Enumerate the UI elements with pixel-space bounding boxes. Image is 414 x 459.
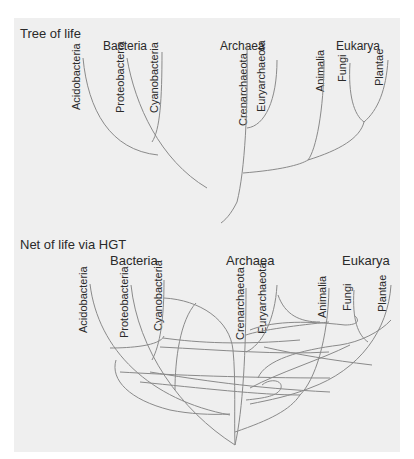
tree-leaf-fungi: Fungi [336, 54, 348, 82]
net-of-life: Net of life via HGT Bacteria Archaea Euk… [20, 237, 391, 445]
net-leaf-fungi: Fungi [341, 283, 353, 311]
tree-branch-eukarya-root [243, 160, 308, 173]
net-domain-eukarya: Eukarya [342, 253, 390, 268]
net-hgt-eury-animalia [278, 295, 320, 322]
net-leaf-euryarchaeota: Euryarchaeota [256, 262, 268, 334]
net-leaf-crenarchaeota: Crenarchaeota [234, 266, 246, 340]
tree-leaf-cyanobacteria: Cyanobacteria [148, 41, 160, 113]
net-hgt-arch-eukarya [250, 345, 350, 388]
tree-title: Tree of life [20, 26, 81, 41]
tree-leaf-euryarchaeota: Euryarchaeota [255, 40, 267, 112]
tree-leaf-acidobacteria: Acidobacteria [70, 42, 82, 110]
tree-branch-proteobacteria [127, 58, 207, 188]
net-lineage-fungi [354, 290, 368, 342]
net-lineage-proteobacteria [131, 285, 235, 445]
net-leaf-animalia: Animalia [316, 275, 328, 318]
net-leaf-proteobacteria: Proteobacteria [118, 266, 130, 338]
tree-branch-fungi [350, 63, 364, 122]
tree-leaf-plantae: Plantae [373, 49, 385, 86]
net-hgt-cyano-arch [164, 298, 235, 445]
net-hgt-cyano-down [175, 303, 196, 390]
net-hgt-small-loop [246, 381, 281, 400]
net-hgt-long-1 [120, 372, 330, 378]
net-leaf-plantae: Plantae [376, 275, 388, 312]
tree-of-life: Tree of life Bacteria Archaea Eukarya Ac… [20, 26, 388, 223]
tree-and-net-diagram: Tree of life Bacteria Archaea Eukarya Ac… [0, 0, 414, 459]
net-title: Net of life via HGT [20, 237, 126, 252]
net-leaf-acidobacteria: Acidobacteria [77, 265, 89, 333]
tree-leaf-proteobacteria: Proteobacteria [114, 41, 126, 113]
